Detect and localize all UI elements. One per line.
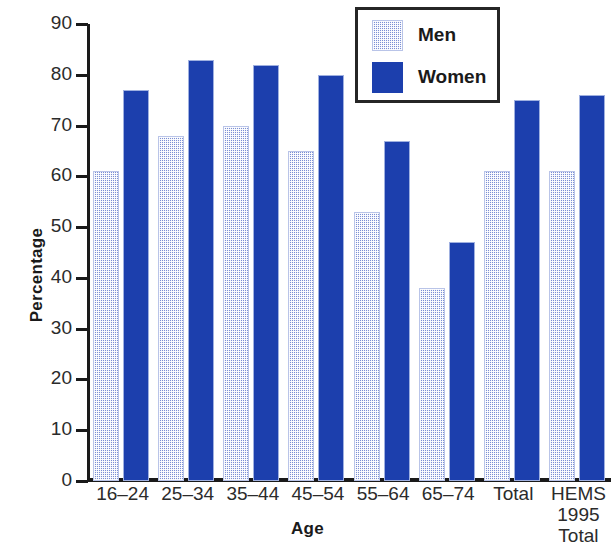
y-tick-label-60: 60 [38,165,72,184]
y-tick-label-90: 90 [38,13,72,32]
x-tick-label-line: 55–64 [357,483,410,504]
x-tick-label: 55–64 [346,483,420,504]
bar-group [546,24,611,481]
bar-men [549,171,575,481]
bar-women [188,60,214,481]
x-tick-label: Total [476,483,550,504]
y-tick-70 [76,125,88,128]
x-tick-label-line: 16–24 [96,483,149,504]
x-tick-label: 16–24 [86,483,160,504]
bar-women [384,141,410,481]
bar-men [419,288,445,481]
y-tick-label-80: 80 [38,64,72,83]
x-tick-label: 25–34 [151,483,225,504]
y-tick-20 [76,378,88,381]
x-tick-label-line: 35–44 [226,483,279,504]
y-tick-label-50: 50 [38,216,72,235]
bar-men [354,212,380,481]
x-tick-label-line: Total [493,483,533,504]
y-tick-30 [76,328,88,331]
bar-men [223,126,249,481]
x-tick-label: 45–54 [281,483,355,504]
men-swatch-icon [372,20,403,51]
y-tick-label-20: 20 [38,368,72,387]
legend: Men Women [355,7,500,103]
legend-label-women: Women [418,66,486,88]
x-axis-tick-labels: 16–2425–3435–4445–5455–6465–74TotalHEMS1… [90,483,611,553]
x-tick-label: 35–44 [216,483,290,504]
y-tick-60 [76,175,88,178]
y-tick-label-30: 30 [38,318,72,337]
bar-chart: Percentage 9080706050403020100 16–2425–3… [0,0,615,553]
bar-group [220,24,285,481]
y-tick-label-40: 40 [38,267,72,286]
bar-group [285,24,350,481]
y-tick-label-70: 70 [38,115,72,134]
x-axis-title: Age [0,519,615,539]
bar-women [318,75,344,481]
bar-group [155,24,220,481]
bar-women [449,242,475,481]
y-tick-10 [76,429,88,432]
x-tick-label-line: 25–34 [161,483,214,504]
bar-women [123,90,149,481]
legend-label-men: Men [418,24,456,46]
x-tick-label-line: 45–54 [292,483,345,504]
bar-men [288,151,314,481]
y-tick-label-0: 0 [38,470,72,489]
bar-group [90,24,155,481]
plot-area [90,24,611,481]
y-tick-80 [76,74,88,77]
y-tick-40 [76,277,88,280]
y-tick-label-10: 10 [38,419,72,438]
bar-women [514,100,540,481]
y-tick-50 [76,226,88,229]
women-swatch-icon [372,62,403,93]
y-axis-tick-labels: 9080706050403020100 [38,0,72,553]
bar-women [579,95,605,481]
bar-women [253,65,279,481]
bar-men [158,136,184,481]
x-tick-label-line: HEMS [551,483,606,504]
y-tick-90 [76,23,88,26]
bar-men [484,171,510,481]
bar-men [93,171,119,481]
x-tick-label: 65–74 [411,483,485,504]
x-tick-label-line: 65–74 [422,483,475,504]
